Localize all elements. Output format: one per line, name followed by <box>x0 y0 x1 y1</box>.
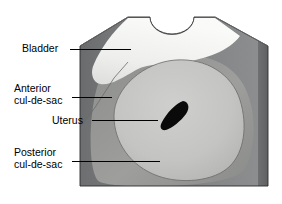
anatomy-figure: Bladder Anterior cul-de-sac Uterus Poste… <box>0 0 282 204</box>
label-uterus: Uterus <box>52 114 83 126</box>
label-bladder: Bladder <box>22 42 59 54</box>
right-bevel <box>258 40 268 186</box>
label-anterior-cul-de-sac-line2: cul-de-sac <box>14 94 62 106</box>
label-anterior-cul-de-sac-line1: Anterior <box>14 82 51 94</box>
label-posterior-cul-de-sac-line2: cul-de-sac <box>14 158 62 170</box>
label-posterior-cul-de-sac-line1: Posterior <box>14 146 57 158</box>
illustration-canvas: Bladder Anterior cul-de-sac Uterus Poste… <box>0 0 282 204</box>
labels-group: Bladder Anterior cul-de-sac Uterus Poste… <box>14 42 83 170</box>
